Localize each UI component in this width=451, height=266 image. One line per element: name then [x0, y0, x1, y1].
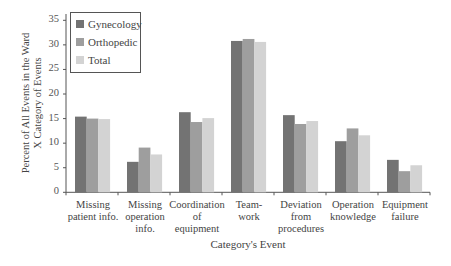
legend-label: Orthopedic	[88, 36, 137, 48]
y-tick-label: 0	[37, 185, 59, 196]
bar-orthopedic	[399, 171, 411, 192]
bar-gynecology	[179, 112, 191, 192]
bar-total	[254, 42, 266, 192]
bar-gynecology	[387, 160, 399, 192]
legend-item-total: Total	[76, 54, 110, 66]
legend-swatch-icon	[76, 38, 84, 46]
bar-total	[202, 118, 214, 192]
y-tick-label: 35	[37, 13, 59, 24]
y-tick-label: 20	[37, 87, 59, 98]
bar-gynecology	[335, 141, 347, 192]
y-tick-label: 30	[37, 38, 59, 49]
y-tick-label: 15	[37, 112, 59, 123]
y-tick-label: 5	[37, 161, 59, 172]
y-tick-label: 25	[37, 62, 59, 73]
legend: Gynecology Orthopedic Total	[70, 12, 141, 73]
y-axis-label-line-1: Percent of All Events in the Ward	[20, 33, 32, 174]
bar-gynecology	[283, 115, 295, 192]
y-tick-label: 10	[37, 136, 59, 147]
bar-orthopedic	[243, 39, 255, 192]
x-axis-label: Category's Event	[211, 238, 286, 250]
legend-swatch-icon	[76, 56, 84, 64]
bar-orthopedic	[347, 128, 359, 192]
legend-item-gynecology: Gynecology	[76, 18, 142, 30]
legend-label: Total	[88, 54, 110, 66]
bar-total	[98, 119, 110, 192]
bar-orthopedic	[87, 119, 99, 193]
bar-total	[358, 135, 370, 192]
bar-gynecology	[127, 162, 139, 192]
bar-total	[150, 154, 162, 192]
category-label: Equipmentfailure	[374, 199, 436, 223]
legend-swatch-icon	[76, 20, 84, 28]
legend-item-orthopedic: Orthopedic	[76, 36, 137, 48]
bar-total	[306, 121, 318, 192]
y-axis-label-line-2: X Category of Events	[32, 33, 44, 174]
bar-gynecology	[231, 41, 243, 192]
bar-orthopedic	[139, 148, 151, 193]
bar-orthopedic	[295, 124, 307, 192]
bar-total	[410, 165, 422, 192]
bar-orthopedic	[191, 122, 203, 192]
bar-gynecology	[75, 117, 87, 193]
legend-label: Gynecology	[88, 18, 142, 30]
y-axis-label: Percent of All Events in the Ward X Cate…	[20, 33, 44, 174]
